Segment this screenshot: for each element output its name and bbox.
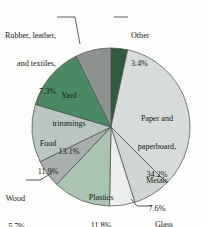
pie-chart-figure: Paper and paperboard, 34.2% Metals 7.6% … — [0, 0, 207, 227]
slice-label-wood: Wood 5.7% — [0, 175, 25, 227]
slice-label-plastics-line1: Plastics — [76, 193, 126, 202]
slice-label-rubber-line1: Rubber, leather, — [2, 31, 56, 40]
slice-label-paper-line2: paperboard, — [126, 142, 188, 151]
slice-label-plastics-value: 11.8% — [76, 221, 126, 227]
slice-label-glass-line1: Glass — [155, 220, 203, 227]
slice-label-wood-line1: Wood — [0, 194, 25, 203]
slice-label-paper-line1: Paper and — [126, 114, 188, 123]
slice-label-yard-line2: trimmings — [38, 119, 100, 128]
slice-label-rubber-leather-textiles: Rubber, leather, and textiles, 7.3% — [2, 12, 56, 115]
leader-line-rubber — [57, 17, 80, 44]
slice-label-metals-line1: Metals — [134, 176, 180, 185]
slice-label-rubber-line2: and textiles, — [2, 59, 56, 68]
slice-label-other-line1: Other — [131, 31, 187, 40]
slice-label-plastics: Plastics 11.8% — [76, 174, 126, 227]
slice-label-other-value: 3.4% — [131, 59, 187, 68]
slice-label-glass: Glass 5.2% — [155, 201, 203, 227]
slice-label-wood-value: 5.7% — [0, 222, 25, 227]
slice-label-rubber-value: 7.3% — [2, 87, 56, 96]
slice-label-other: Other 3.4% — [131, 12, 187, 87]
slice-label-yard-value: 13.1% — [38, 147, 100, 156]
